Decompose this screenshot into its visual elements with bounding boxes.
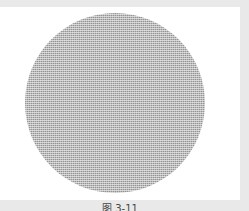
figure-caption: 图 3-11 [0, 203, 240, 211]
halftone-circle [25, 13, 205, 193]
